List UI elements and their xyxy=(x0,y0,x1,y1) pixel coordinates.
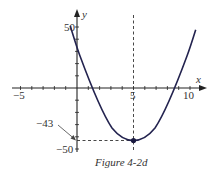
y-axis-arrow-icon xyxy=(74,9,80,17)
x-tick-label-5: 5 xyxy=(130,89,136,101)
parabola-figure: −5 5 10 x 50 −50 y −43 xyxy=(0,0,210,170)
y-tick-label-50: 50 xyxy=(64,21,76,33)
y-tick-label-neg50: −50 xyxy=(56,143,74,155)
annotation-leader-line xyxy=(58,125,74,139)
y-axis-label: y xyxy=(81,8,87,20)
x-axis-arrow-icon xyxy=(199,85,207,91)
annotation-neg43: −43 xyxy=(36,117,54,129)
figure-caption: Figure 4-2d xyxy=(94,156,148,168)
vertex-point xyxy=(131,138,136,143)
x-axis-label: x xyxy=(195,73,201,85)
x-axis: −5 5 10 x xyxy=(12,73,207,101)
parabola-curve xyxy=(70,26,196,141)
x-tick-label-neg5: −5 xyxy=(13,89,25,101)
x-tick-label-10: 10 xyxy=(183,89,195,101)
guide-lines xyxy=(77,15,134,152)
